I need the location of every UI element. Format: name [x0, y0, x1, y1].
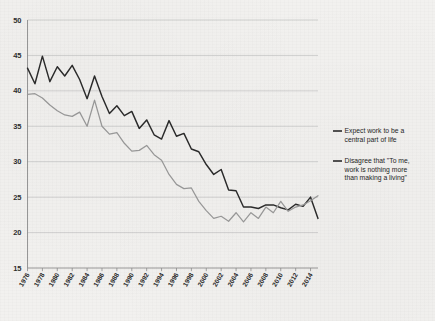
- y-tick-label-20: 20: [13, 228, 21, 237]
- x-tick-label-1998: 1998: [181, 271, 195, 287]
- x-tick-label-1984: 1984: [77, 271, 91, 287]
- chart-canvas: 1520253035404550 19761978198019821984198…: [0, 0, 435, 321]
- legend-label-0-line-1: central part of life: [345, 136, 397, 144]
- x-tick-label-2002: 2002: [211, 271, 225, 287]
- series-line-1: [28, 94, 319, 222]
- y-tick-label-15: 15: [13, 264, 21, 273]
- legend-label-1-line-0: Disagree that "To me,: [345, 157, 410, 165]
- x-tick-label-2000: 2000: [196, 271, 210, 287]
- y-tick-label-25: 25: [13, 193, 21, 202]
- x-tick-label-1990: 1990: [122, 271, 136, 287]
- x-tick-label-1976: 1976: [17, 271, 31, 287]
- x-axis-tick-labels: 1976197819801982198419861988199019921994…: [17, 271, 314, 287]
- y-tick-label-30: 30: [13, 157, 21, 166]
- y-tick-label-50: 50: [13, 16, 21, 25]
- legend-label-1-line-1: work is nothing more: [344, 166, 408, 174]
- x-tick-label-1988: 1988: [107, 271, 121, 287]
- x-tick-label-1996: 1996: [166, 271, 180, 287]
- x-tick-label-2004: 2004: [226, 271, 240, 287]
- chart-legend: Expect work to be acentral part of lifeD…: [333, 127, 410, 182]
- legend-label-0-line-0: Expect work to be a: [345, 127, 405, 135]
- line-chart-figure: 1520253035404550 19761978198019821984198…: [0, 0, 435, 321]
- x-tick-label-2014: 2014: [300, 271, 314, 287]
- y-tick-label-35: 35: [13, 122, 21, 131]
- x-tick-label-1978: 1978: [32, 271, 46, 287]
- x-tick-label-1994: 1994: [151, 271, 165, 287]
- x-tick-label-1980: 1980: [47, 271, 61, 287]
- y-tick-label-40: 40: [13, 86, 21, 95]
- x-tick-label-2012: 2012: [286, 271, 300, 287]
- x-tick-label-2008: 2008: [256, 271, 270, 287]
- gridline-group: [28, 20, 319, 268]
- x-tick-label-1982: 1982: [62, 271, 76, 287]
- legend-label-1-line-2: than making a living": [345, 174, 408, 182]
- y-tick-label-45: 45: [13, 51, 21, 60]
- x-tick-label-1986: 1986: [92, 271, 106, 287]
- x-axis-tick-marks: [28, 268, 311, 271]
- x-tick-label-2010: 2010: [271, 271, 285, 287]
- y-axis-tick-labels: 1520253035404550: [13, 16, 21, 273]
- series-line-0: [28, 56, 319, 218]
- x-tick-label-1992: 1992: [137, 271, 151, 287]
- x-tick-label-2006: 2006: [241, 271, 255, 287]
